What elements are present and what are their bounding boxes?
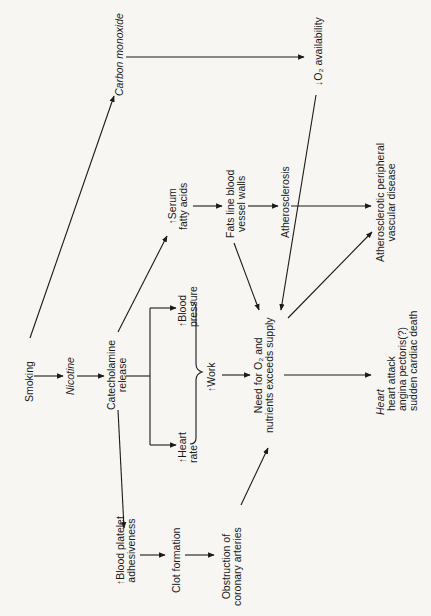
node-text: pressure: [188, 286, 199, 327]
node-text: fatty acids: [178, 183, 189, 230]
node-text: release: [117, 340, 128, 410]
node-heart-outcomes: Heart heart attack angina pectoris(?) su…: [375, 311, 419, 415]
node-serum-fatty-acids: ↑Serum fatty acids: [167, 183, 189, 230]
node-blood-platelet-adhesiveness: ↑Blood platelet adhesiveness: [115, 516, 137, 585]
flowchart-canvas: Smoking Nicotine Carbon monoxide Catecho…: [0, 0, 431, 616]
node-carbon-monoxide: Carbon monoxide: [114, 13, 125, 96]
node-text: ↑Work: [206, 362, 217, 392]
node-text: sudden cardiac death: [408, 311, 419, 415]
node-text: adhesiveness: [126, 516, 137, 585]
node-peripheral-vascular-disease: Atherosclerotic peripheral vascular dise…: [375, 143, 397, 262]
node-text: Carbon monoxide: [114, 13, 125, 96]
node-text: rate: [188, 432, 199, 463]
node-nicotine: Nicotine: [65, 357, 76, 395]
node-text: vascular disease: [386, 143, 397, 262]
node-heart-rate: ↑Heart rate: [177, 432, 199, 463]
node-blood-pressure: ↑Blood pressure: [177, 286, 199, 327]
node-text: Nicotine: [65, 357, 76, 395]
node-fats-line-vessel-walls: Fats line blood vessel walls: [225, 170, 247, 238]
connector-lines: [0, 0, 431, 616]
node-need-o2-nutrients: Need for O₂ and nutrients exceeds supply: [253, 317, 275, 433]
node-text: Atherosclerosis: [280, 166, 291, 238]
node-clot-formation: Clot formation: [171, 528, 182, 593]
node-work: ↑Work: [206, 362, 217, 392]
node-text: ↓O₂ availability: [313, 17, 324, 86]
node-text: vessel walls: [236, 170, 247, 238]
node-text: nutrients exceeds supply: [264, 317, 275, 433]
node-atherosclerosis: Atherosclerosis: [280, 166, 291, 238]
node-text: Clot formation: [171, 528, 182, 593]
node-text: Smoking: [24, 361, 35, 402]
node-o2-availability: ↓O₂ availability: [313, 17, 324, 86]
node-obstruction-coronary-arteries: Obstruction of coronary arteries: [221, 527, 243, 606]
node-catecholamine-release: Catecholamine release: [106, 340, 128, 410]
node-text: coronary arteries: [232, 527, 243, 606]
node-smoking: Smoking: [24, 361, 35, 402]
